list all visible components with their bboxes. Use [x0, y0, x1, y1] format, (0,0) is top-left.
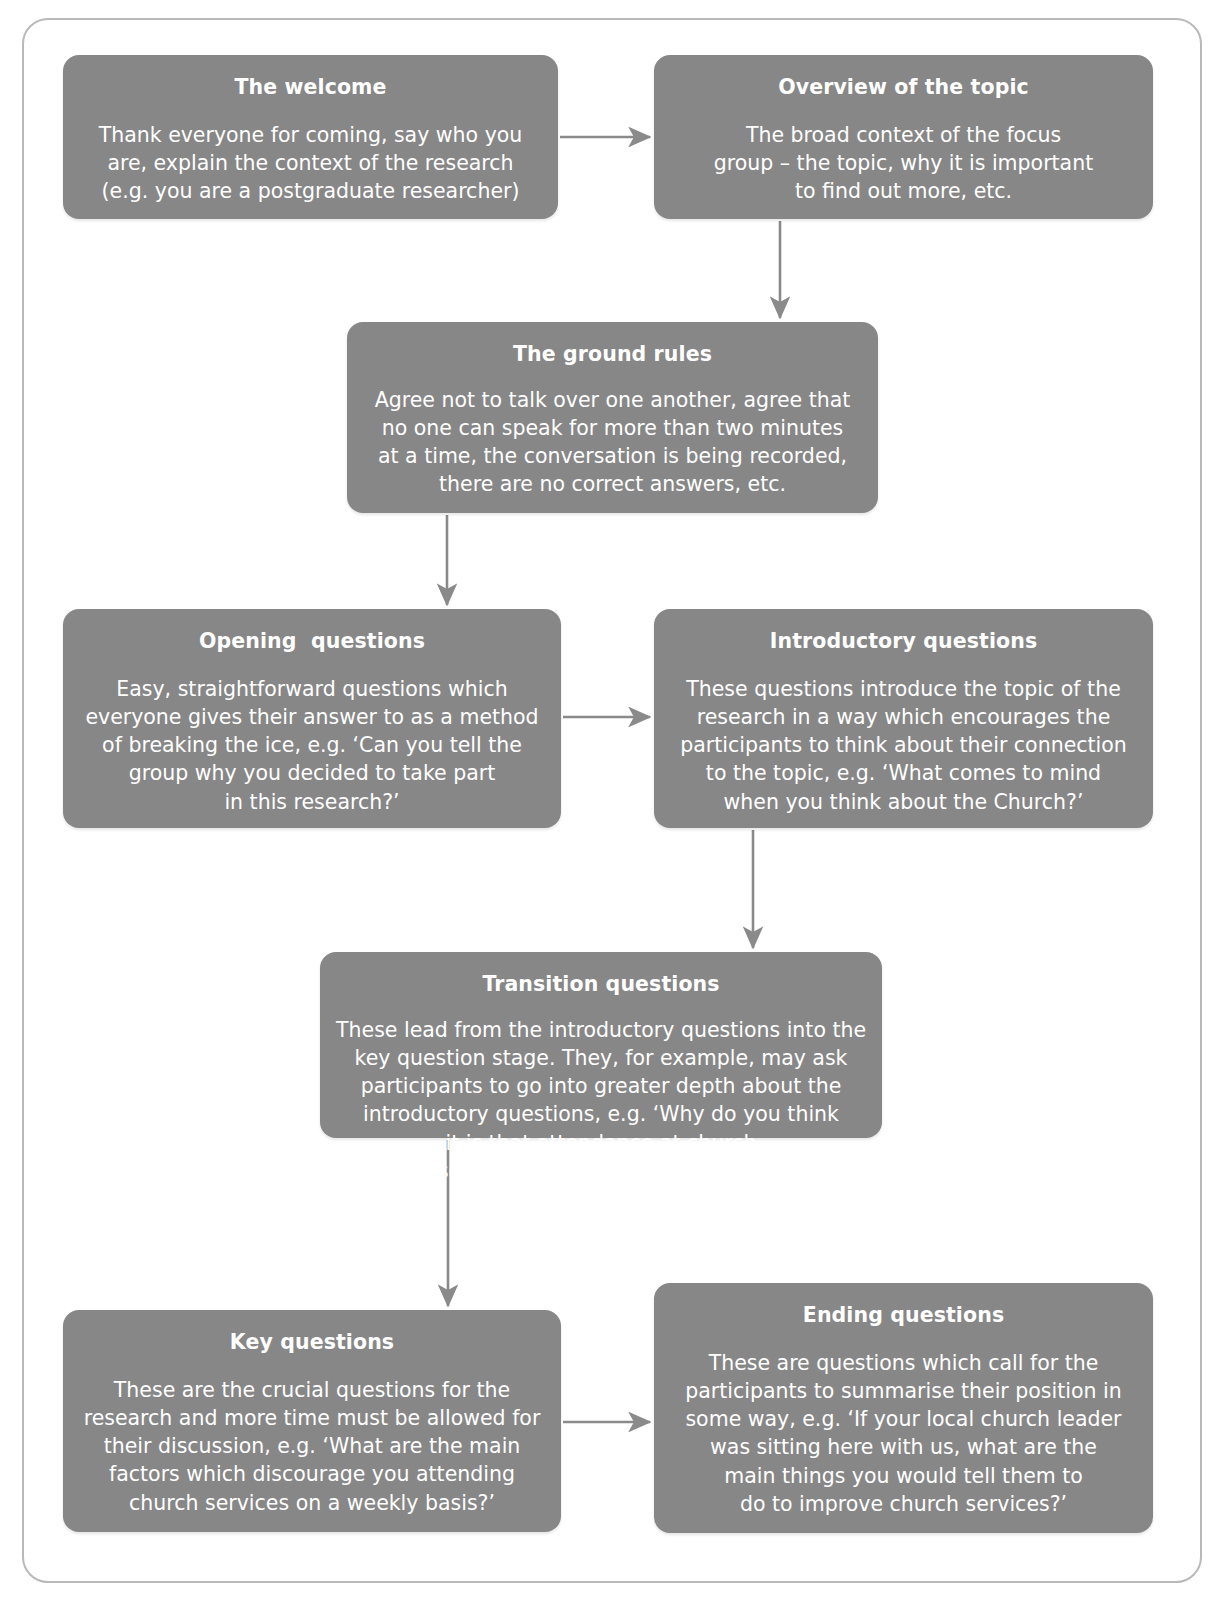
node-body-line: (e.g. you are a postgraduate researcher)	[79, 177, 542, 205]
node-title: The ground rules	[363, 342, 862, 368]
node-body-line: participants to summarise their position…	[670, 1377, 1137, 1405]
node-introductory-questions[interactable]: Introductory questions These questions i…	[654, 609, 1153, 828]
node-body-line: introductory questions, e.g. ‘Why do you…	[336, 1100, 866, 1128]
node-body-line: to find out more, etc.	[670, 177, 1137, 205]
node-key-questions[interactable]: Key questions These are the crucial ques…	[63, 1310, 561, 1532]
node-body-line: group why you decided to take part	[79, 759, 545, 787]
node-body-line: their discussion, e.g. ‘What are the mai…	[79, 1432, 545, 1460]
node-body-line: no one can speak for more than two minut…	[363, 414, 862, 442]
node-body-line: research in a way which encourages the	[670, 703, 1137, 731]
node-body-line: everyone gives their answer to as a meth…	[79, 703, 545, 731]
node-body-line: was sitting here with us, what are the	[670, 1433, 1137, 1461]
node-body-line: do to improve church services?’	[670, 1490, 1137, 1518]
node-body-line: These are questions which call for the	[670, 1349, 1137, 1377]
node-title: Key questions	[79, 1330, 545, 1356]
node-title: Transition questions	[336, 972, 866, 998]
node-body: The broad context of the focus group – t…	[670, 121, 1137, 206]
node-overview-of-the-topic[interactable]: Overview of the topic The broad context …	[654, 55, 1153, 219]
node-title: The welcome	[79, 75, 542, 101]
flowchart-page: The welcome Thank everyone for coming, s…	[0, 0, 1230, 1621]
node-body-line: of breaking the ice, e.g. ‘Can you tell …	[79, 731, 545, 759]
node-body-line: Agree not to talk over one another, agre…	[363, 386, 862, 414]
node-body-line: participants to think about their connec…	[670, 731, 1137, 759]
node-body-line: group – the topic, why it is important	[670, 149, 1137, 177]
node-body-line: at a time, the conversation is being rec…	[363, 442, 862, 470]
node-body-line: to the topic, e.g. ‘What comes to mind	[670, 759, 1137, 787]
node-body-line: Easy, straightforward questions which	[79, 675, 545, 703]
node-body-line: in this research?’	[79, 788, 545, 816]
node-body-line: key question stage. They, for example, m…	[336, 1044, 866, 1072]
node-body-line: there are no correct answers, etc.	[363, 470, 862, 498]
node-body-line: some way, e.g. ‘If your local church lea…	[670, 1405, 1137, 1433]
node-body-line: participants to go into greater depth ab…	[336, 1072, 866, 1100]
node-title: Ending questions	[670, 1303, 1137, 1329]
node-body-line: These lead from the introductory questio…	[336, 1016, 866, 1044]
node-body-line: These questions introduce the topic of t…	[670, 675, 1137, 703]
node-ending-questions[interactable]: Ending questions These are questions whi…	[654, 1283, 1153, 1533]
node-title: Overview of the topic	[670, 75, 1137, 101]
node-the-ground-rules[interactable]: The ground rules Agree not to talk over …	[347, 322, 878, 513]
node-body-line: factors which discourage you attending	[79, 1460, 545, 1488]
node-body-line: church services on a weekly basis?’	[79, 1489, 545, 1517]
node-body-line: The broad context of the focus	[670, 121, 1137, 149]
node-body-line: Thank everyone for coming, say who you	[79, 121, 542, 149]
node-body: These are questions which call for the p…	[670, 1349, 1137, 1519]
node-opening-questions[interactable]: Opening questions Easy, straightforward …	[63, 609, 561, 828]
node-body-line: These are the crucial questions for the	[79, 1376, 545, 1404]
node-body: These are the crucial questions for the …	[79, 1376, 545, 1517]
node-body-line: when you think about the Church?’	[670, 788, 1137, 816]
node-body-line: are, explain the context of the research	[79, 149, 542, 177]
node-body-line: main things you would tell them to	[670, 1462, 1137, 1490]
node-body: These lead from the introductory questio…	[336, 1016, 866, 1186]
node-body: Agree not to talk over one another, agre…	[363, 386, 862, 499]
node-body-line: research and more time must be allowed f…	[79, 1404, 545, 1432]
node-title: Opening questions	[79, 629, 545, 655]
node-the-welcome[interactable]: The welcome Thank everyone for coming, s…	[63, 55, 558, 219]
node-body: Easy, straightforward questions which ev…	[79, 675, 545, 816]
node-body: Thank everyone for coming, say who you a…	[79, 121, 542, 206]
node-body-line: it is that attendance at church	[336, 1129, 866, 1157]
node-transition-questions[interactable]: Transition questions These lead from the…	[320, 952, 882, 1138]
node-body: These questions introduce the topic of t…	[670, 675, 1137, 816]
node-title: Introductory questions	[670, 629, 1137, 655]
node-body-line: services is generally declining?’	[336, 1157, 866, 1185]
